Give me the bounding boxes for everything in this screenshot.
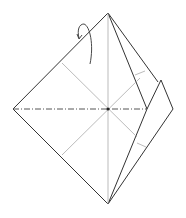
origami-diagram	[0, 0, 186, 218]
turn-over-arrow-icon	[77, 24, 92, 64]
center-point	[107, 108, 110, 111]
